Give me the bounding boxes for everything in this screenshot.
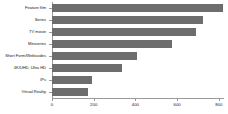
x-tick-label: 0	[51, 102, 53, 108]
bar-4k-uhd-ultra-hd	[52, 64, 122, 72]
x-tick-mark	[94, 98, 95, 101]
bar-rect	[52, 64, 122, 72]
category-label: IPs	[0, 76, 49, 84]
bar-series	[52, 16, 203, 24]
bar-ips	[52, 76, 92, 84]
category-label: Miniseries	[0, 40, 49, 48]
bar-rect	[52, 28, 196, 36]
bar-miniseries	[52, 40, 172, 48]
bar-virtual-reality	[52, 88, 88, 96]
category-label: Short Form/Webisodes	[0, 52, 49, 60]
bar-rect	[52, 4, 223, 12]
x-tick-label: 400	[132, 102, 139, 108]
plot-area	[52, 2, 224, 98]
bar-rect	[52, 76, 92, 84]
x-tick-label: 200	[90, 102, 97, 108]
x-tick-mark	[135, 98, 136, 101]
bar-tv-movie	[52, 28, 196, 36]
x-tick-label: 600	[173, 102, 180, 108]
x-tick-mark	[219, 98, 220, 101]
category-label: Series	[0, 16, 49, 24]
x-tick-mark	[177, 98, 178, 101]
bar-chart: Feature filmSeriesTV movieMiniseriesShor…	[0, 0, 228, 114]
x-tick-mark	[52, 98, 53, 101]
category-label: TV movie	[0, 28, 49, 36]
category-label: 4K/UHD, Ultra HD	[0, 64, 49, 72]
bar-rect	[52, 16, 203, 24]
bar-rect	[52, 88, 88, 96]
bar-short-form-webisodes	[52, 52, 137, 60]
category-label: Virtual Reality	[0, 88, 49, 96]
bar-rect	[52, 40, 172, 48]
bar-feature-film	[52, 4, 223, 12]
x-tick-label: 800	[215, 102, 222, 108]
bar-rect	[52, 52, 137, 60]
category-label: Feature film	[0, 4, 49, 12]
x-axis-line	[52, 98, 224, 99]
